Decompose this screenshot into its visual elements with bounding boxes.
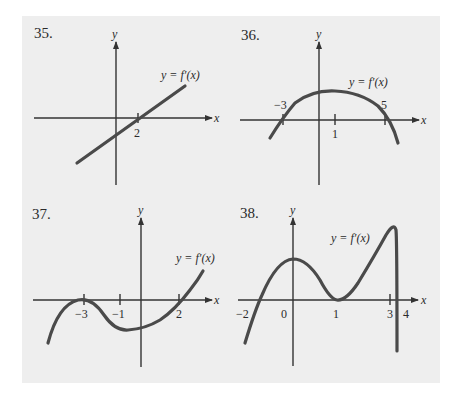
curve-label: y = f′(x) [330,231,370,245]
tick-label: 4 [403,307,409,321]
tick-label: −1 [112,307,125,321]
problem-number: 35. [34,25,53,41]
problem-number: 38. [240,205,259,221]
graph-35: 35. y x 2 y = f′(x) [34,25,220,185]
problem-number: 36. [241,27,260,43]
curve-label: y = f′(x) [175,251,215,265]
y-axis-label: y [137,203,144,217]
x-axis-label: x [420,113,427,127]
y-axis-label: y [315,27,322,41]
graph-36: 36. y x −3 1 5 y = f′(x) [240,27,427,185]
tick-label: 1 [333,307,339,321]
graph-38: 38. y x −2 0 1 3 4 y = f′(x) [236,203,427,366]
tick-label: 2 [134,126,140,140]
tick-label: 0 [281,307,287,321]
x-axis-label: x [213,293,220,307]
curve [245,227,397,351]
x-axis-label: x [213,111,220,125]
y-axis-label: y [111,27,118,41]
tick-label: −3 [75,307,88,321]
tick-label: 1 [332,127,338,141]
y-axis-label: y [289,203,296,217]
curve-label: y = f′(x) [348,75,388,89]
curve [77,86,185,163]
graphs-figure: 35. y x 2 y = f′(x) 36. y x −3 1 5 y = f… [0,0,461,398]
curve-label: y = f′(x) [160,68,200,82]
problem-number: 37. [32,206,51,222]
x-axis-label: x [420,293,427,307]
tick-label: 2 [176,307,182,321]
graph-37: 37. y x −3 −1 2 y = f′(x) [32,203,220,367]
tick-label: 3 [387,307,393,321]
tick-label: −3 [274,98,287,112]
tick-label: −2 [236,307,249,321]
